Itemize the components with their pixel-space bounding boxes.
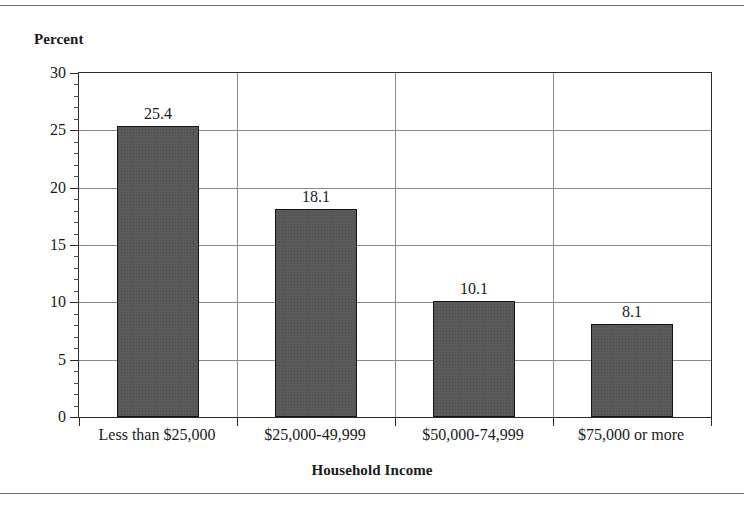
x-axis-category-label: $50,000-74,999 [422,426,523,444]
y-axis-tick-major [70,245,79,246]
y-axis-tick-major [70,188,79,189]
y-axis-tick-minor [74,291,79,292]
y-axis-tick-minor [74,211,79,212]
bar[interactable] [117,126,199,417]
y-axis-tick-minor [74,371,79,372]
y-axis-tick-minor [74,119,79,120]
y-axis-tick-minor [74,383,79,384]
gridline-category-divider [237,73,238,417]
bar-value-label: 18.1 [302,188,330,209]
y-axis-tick-major [70,130,79,131]
y-axis-tick-minor [74,314,79,315]
y-axis-tick-minor [74,279,79,280]
y-axis-label: 20 [50,179,66,197]
y-axis-tick-minor [74,256,79,257]
y-axis-tick-minor [74,84,79,85]
figure-top-rule [0,5,744,6]
x-axis-tick [79,417,80,426]
x-axis-tick [237,417,238,426]
y-axis-tick-minor [74,96,79,97]
bar-value-label: 8.1 [622,303,642,324]
x-axis-tick [395,417,396,426]
gridline-category-divider [553,73,554,417]
plot-area: 05101520253025.418.110.18.1 [78,72,712,418]
y-axis-tick-major [70,73,79,74]
y-axis-label: 0 [58,408,66,426]
y-axis-label: 10 [50,293,66,311]
y-axis-label: 25 [50,121,66,139]
y-axis-tick-minor [74,348,79,349]
bar[interactable] [591,324,673,417]
y-axis-label: 15 [50,236,66,254]
y-axis-tick-minor [74,222,79,223]
y-axis-tick-minor [74,325,79,326]
x-axis-category-label: $25,000-49,999 [264,426,365,444]
bar-value-label: 25.4 [144,105,172,126]
y-axis-tick-minor [74,234,79,235]
y-axis-tick-major [70,360,79,361]
y-axis-tick-minor [74,165,79,166]
y-axis-tick-minor [74,337,79,338]
y-axis-tick-minor [74,406,79,407]
y-axis-tick-minor [74,199,79,200]
bar[interactable] [275,209,357,417]
y-axis-label: 30 [50,64,66,82]
y-axis-tick-minor [74,176,79,177]
x-axis-category-label: Less than $25,000 [99,426,216,444]
x-axis-category-label: $75,000 or more [578,426,684,444]
x-axis-tick [553,417,554,426]
y-axis-tick-minor [74,153,79,154]
y-axis-tick-minor [74,142,79,143]
y-axis-tick-major [70,302,79,303]
y-axis-title: Percent [34,31,84,48]
y-axis-tick-minor [74,268,79,269]
figure-bottom-rule [0,493,744,494]
x-axis-title: Household Income [0,462,744,479]
x-axis-tick [711,417,712,426]
y-axis-tick-major [70,417,79,418]
y-axis-label: 5 [58,351,66,369]
y-axis-tick-minor [74,394,79,395]
bar[interactable] [433,301,515,417]
y-axis-tick-minor [74,107,79,108]
bar-value-label: 10.1 [460,280,488,301]
gridline-category-divider [395,73,396,417]
